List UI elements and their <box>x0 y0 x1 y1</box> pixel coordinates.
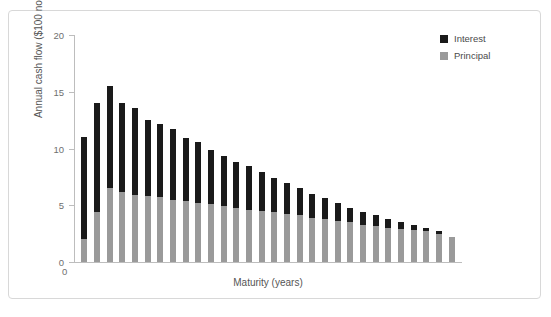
bar-segment-interest <box>81 137 87 239</box>
chart-legend: InterestPrincipal <box>440 33 490 67</box>
bar-segment-principal <box>94 212 100 262</box>
bar-segment-interest <box>385 219 391 228</box>
bar-group <box>284 183 290 262</box>
bar-segment-interest <box>322 198 328 218</box>
bar-group <box>398 222 404 262</box>
bar-segment-interest <box>132 108 138 195</box>
bar-segment-principal <box>107 188 113 262</box>
bar-segment-principal <box>132 195 138 262</box>
bar-group <box>449 237 455 262</box>
bar-segment-principal <box>335 221 341 262</box>
bar-segment-principal <box>411 230 417 262</box>
bar-group <box>107 86 113 262</box>
bar-segment-interest <box>309 194 315 218</box>
bar-segment-interest <box>107 86 113 188</box>
bar-segment-principal <box>284 214 290 262</box>
legend-item: Principal <box>440 50 490 61</box>
y-axis-tick-mark <box>69 92 74 93</box>
bar-group <box>411 225 417 262</box>
bar-segment-principal <box>119 192 125 262</box>
bar-segment-principal <box>271 212 277 262</box>
bar-segment-interest <box>157 124 163 198</box>
bar-group <box>119 103 125 262</box>
bar-segment-interest <box>297 188 303 215</box>
legend-swatch-icon <box>440 52 448 60</box>
bar-group <box>373 215 379 262</box>
bar-segment-principal <box>373 226 379 262</box>
bar-segment-interest <box>233 162 239 207</box>
bar-group <box>322 198 328 262</box>
bar-group <box>297 188 303 262</box>
bar-group <box>170 129 176 262</box>
bar-segment-principal <box>297 215 303 262</box>
bar-segment-principal <box>81 239 87 262</box>
bar-segment-interest <box>208 150 214 204</box>
bar-group <box>385 219 391 262</box>
bar-segment-principal <box>145 196 151 262</box>
y-axis-tick-mark <box>69 35 74 36</box>
bar-segment-interest <box>119 103 125 192</box>
bar-group <box>81 137 87 262</box>
bar-segment-principal <box>183 201 189 262</box>
bar-segment-interest <box>360 212 366 224</box>
legend-label: Interest <box>454 33 486 44</box>
bar-group <box>183 138 189 262</box>
bar-segment-principal <box>347 222 353 262</box>
bar-group <box>347 208 353 262</box>
bar-segment-principal <box>385 228 391 262</box>
y-axis-tick-mark <box>69 205 74 206</box>
bar-group <box>233 162 239 262</box>
bar-segment-principal <box>233 208 239 262</box>
bar-group <box>360 212 366 262</box>
bar-group <box>145 120 151 262</box>
y-axis-tick-mark <box>69 262 74 263</box>
bar-segment-principal <box>436 234 442 262</box>
bar-group <box>94 103 100 262</box>
y-axis-tick-label: 5 <box>18 200 64 211</box>
bar-segment-principal <box>423 231 429 262</box>
bar-segment-interest <box>259 172 265 211</box>
bar-segment-principal <box>208 204 214 262</box>
bar-series-container <box>78 35 458 262</box>
bar-group <box>246 166 252 262</box>
bar-group <box>423 228 429 262</box>
bar-segment-principal <box>195 203 201 262</box>
bar-segment-principal <box>309 218 315 262</box>
bar-segment-interest <box>145 120 151 196</box>
bar-segment-principal <box>157 197 163 262</box>
bar-group <box>309 194 315 262</box>
bar-segment-principal <box>449 237 455 262</box>
y-axis-tick-mark <box>69 149 74 150</box>
bar-group <box>132 108 138 262</box>
bar-group <box>271 178 277 262</box>
bar-segment-interest <box>284 183 290 215</box>
bar-group <box>157 124 163 262</box>
bar-group <box>335 203 341 262</box>
bar-segment-interest <box>195 142 201 203</box>
bar-segment-interest <box>373 215 379 225</box>
chart-figure: 05101520 0 Annual cash flow ($100 nomina… <box>0 0 551 317</box>
bar-segment-interest <box>347 208 353 223</box>
bar-segment-interest <box>335 203 341 221</box>
legend-swatch-icon <box>440 35 448 43</box>
bar-segment-interest <box>246 166 252 210</box>
bar-group <box>436 231 442 262</box>
bar-group <box>259 172 265 262</box>
bar-segment-interest <box>398 222 404 229</box>
y-axis-tick-label: 0 <box>18 257 64 268</box>
bar-segment-interest <box>221 156 227 206</box>
x-axis-title: Maturity (years) <box>78 277 458 288</box>
bar-segment-principal <box>398 229 404 262</box>
legend-label: Principal <box>454 50 490 61</box>
y-axis-line <box>74 35 75 263</box>
x-axis-origin-label: 0 <box>62 266 67 277</box>
x-axis-line <box>74 262 462 263</box>
bar-segment-principal <box>259 211 265 262</box>
bar-segment-principal <box>322 219 328 262</box>
y-axis-title: Annual cash flow ($100 nominal) <box>33 0 44 146</box>
bar-segment-principal <box>246 210 252 262</box>
bar-group <box>221 156 227 262</box>
bar-group <box>208 150 214 262</box>
bar-segment-principal <box>360 225 366 262</box>
bar-segment-interest <box>94 103 100 212</box>
